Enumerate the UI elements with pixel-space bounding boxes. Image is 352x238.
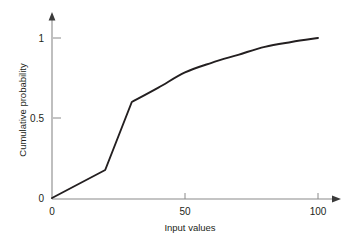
y-tick-label-1: 1 <box>38 33 44 44</box>
y-tick-label-0.5: 0.5 <box>30 113 44 124</box>
cumulative-probability-chart: 1 0.5 0 0 50 100 Input values Cumulative… <box>0 0 352 238</box>
chart-container: 1 0.5 0 0 50 100 Input values Cumulative… <box>0 0 352 238</box>
y-axis-title: Cumulative probability <box>17 63 28 157</box>
x-tick-label-50: 50 <box>179 206 191 217</box>
chart-background <box>0 0 352 238</box>
x-axis-title: Input values <box>164 222 215 233</box>
y-tick-label-0: 0 <box>38 193 44 204</box>
x-tick-label-0: 0 <box>49 206 55 217</box>
x-tick-label-100: 100 <box>310 206 327 217</box>
